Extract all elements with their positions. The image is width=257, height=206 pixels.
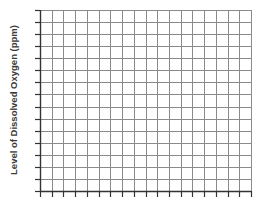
y-axis-label: Level of Dissolved Oxygen (ppm) [8, 25, 19, 175]
graph-grid [0, 0, 257, 206]
blank-graph: Level of Dissolved Oxygen (ppm) [0, 0, 257, 206]
